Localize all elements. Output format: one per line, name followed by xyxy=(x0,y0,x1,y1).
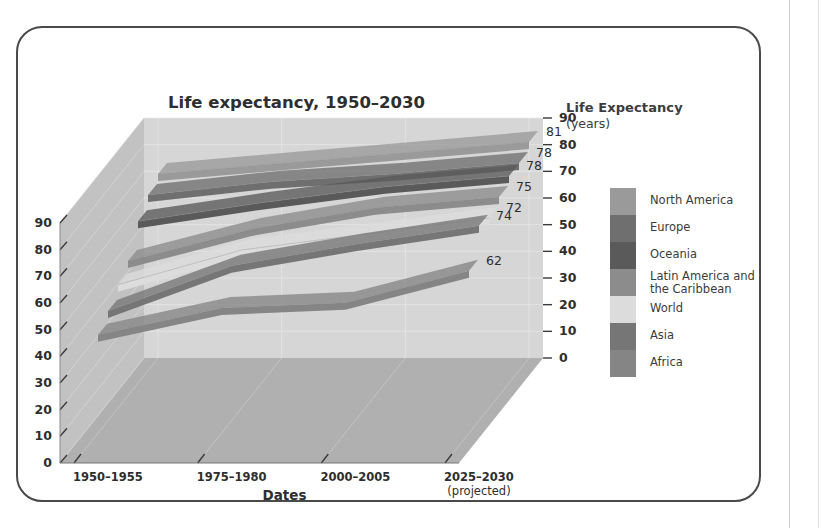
x-axis-title: Dates xyxy=(263,487,307,503)
legend-item: World xyxy=(610,296,785,323)
legend-swatch xyxy=(610,296,636,323)
y-axis-label-right: 60 xyxy=(559,190,577,205)
legend-swatch xyxy=(610,215,636,242)
legend-item: Europe xyxy=(610,215,785,242)
y-axis-label-right: 10 xyxy=(559,323,577,338)
y-axis-label-right: 20 xyxy=(559,297,577,312)
legend-item: Asia xyxy=(610,323,785,350)
legend-label: Oceania xyxy=(650,242,697,261)
y-axis-label-right: 40 xyxy=(559,243,577,258)
y-axis-label-left: 80 xyxy=(35,242,53,257)
y-axis-label-left: 70 xyxy=(35,268,53,283)
legend-item: Latin America and the Caribbean xyxy=(610,269,785,296)
y-axis-label-right: 0 xyxy=(559,350,568,365)
y-axis-label-right: 80 xyxy=(559,137,577,152)
legend-label: Africa xyxy=(650,350,683,369)
y-axis-label-right: 70 xyxy=(559,163,577,178)
legend-item: Africa xyxy=(610,350,785,377)
page-edge-line xyxy=(789,0,790,528)
x-axis-label: 2025–2030 xyxy=(444,470,514,484)
legend-label: Europe xyxy=(650,215,690,234)
y-axis-label-left: 20 xyxy=(35,402,53,417)
legend-label: World xyxy=(650,296,683,315)
chart-legend: North AmericaEuropeOceaniaLatin America … xyxy=(610,188,785,377)
x-axis-label-note: (projected) xyxy=(447,484,510,498)
x-axis-label: 2000–2005 xyxy=(320,470,390,484)
legend-swatch xyxy=(610,323,636,350)
x-axis-label: 1950–1955 xyxy=(73,470,143,484)
legend-item: Oceania xyxy=(610,242,785,269)
y-axis-label-right: 30 xyxy=(559,270,577,285)
chart-floor xyxy=(60,358,543,463)
series-end-label: 78 xyxy=(526,158,542,173)
chart-title: Life expectancy, 1950–2030 xyxy=(168,93,425,112)
y-axis-label-right: 50 xyxy=(559,217,577,232)
series-end-label: 75 xyxy=(516,179,532,194)
y-axis-label-left: 0 xyxy=(43,455,52,470)
x-axis-label: 1975–1980 xyxy=(197,470,267,484)
series-end-label: 74 xyxy=(496,208,512,223)
y-axis-label-left: 50 xyxy=(35,322,53,337)
y-axis-header-title: Life Expectancy xyxy=(566,100,683,115)
page-canvas: 8178787572746201020304050607080900102030… xyxy=(0,0,821,528)
legend-label: North America xyxy=(650,188,733,207)
y-axis-label-left: 30 xyxy=(35,375,53,390)
legend-item: North America xyxy=(610,188,785,215)
y-axis-label-left: 90 xyxy=(35,215,53,230)
legend-label: Asia xyxy=(650,323,674,342)
legend-label: Latin America and the Caribbean xyxy=(650,269,755,296)
y-axis-label-left: 60 xyxy=(35,295,53,310)
legend-swatch xyxy=(610,188,636,215)
figure-frame: 8178787572746201020304050607080900102030… xyxy=(16,26,761,502)
y-axis-header: Life Expectancy (years) xyxy=(566,100,683,131)
legend-swatch xyxy=(610,350,636,377)
y-axis-header-unit: (years) xyxy=(566,116,683,131)
legend-swatch xyxy=(610,269,636,296)
legend-swatch xyxy=(610,242,636,269)
y-axis-label-left: 40 xyxy=(35,348,53,363)
y-axis-label-left: 10 xyxy=(35,428,53,443)
page-edge-line-outer xyxy=(818,0,819,528)
series-end-label: 62 xyxy=(486,253,502,268)
